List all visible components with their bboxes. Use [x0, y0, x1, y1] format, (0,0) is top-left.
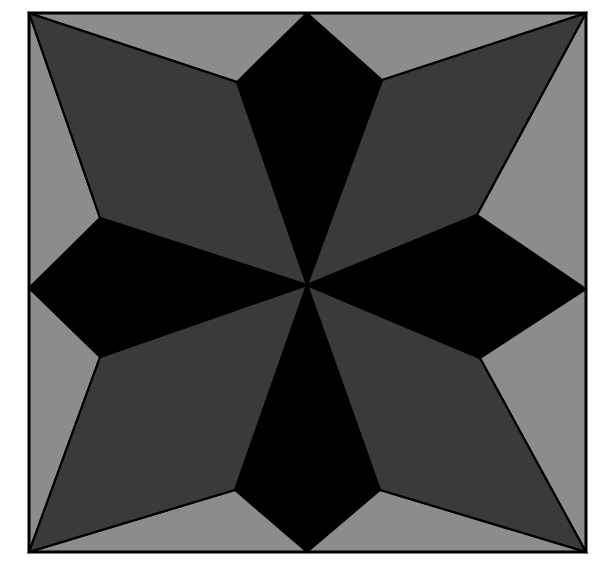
figure-root	[0, 0, 606, 576]
star-figure-svg	[0, 0, 606, 576]
